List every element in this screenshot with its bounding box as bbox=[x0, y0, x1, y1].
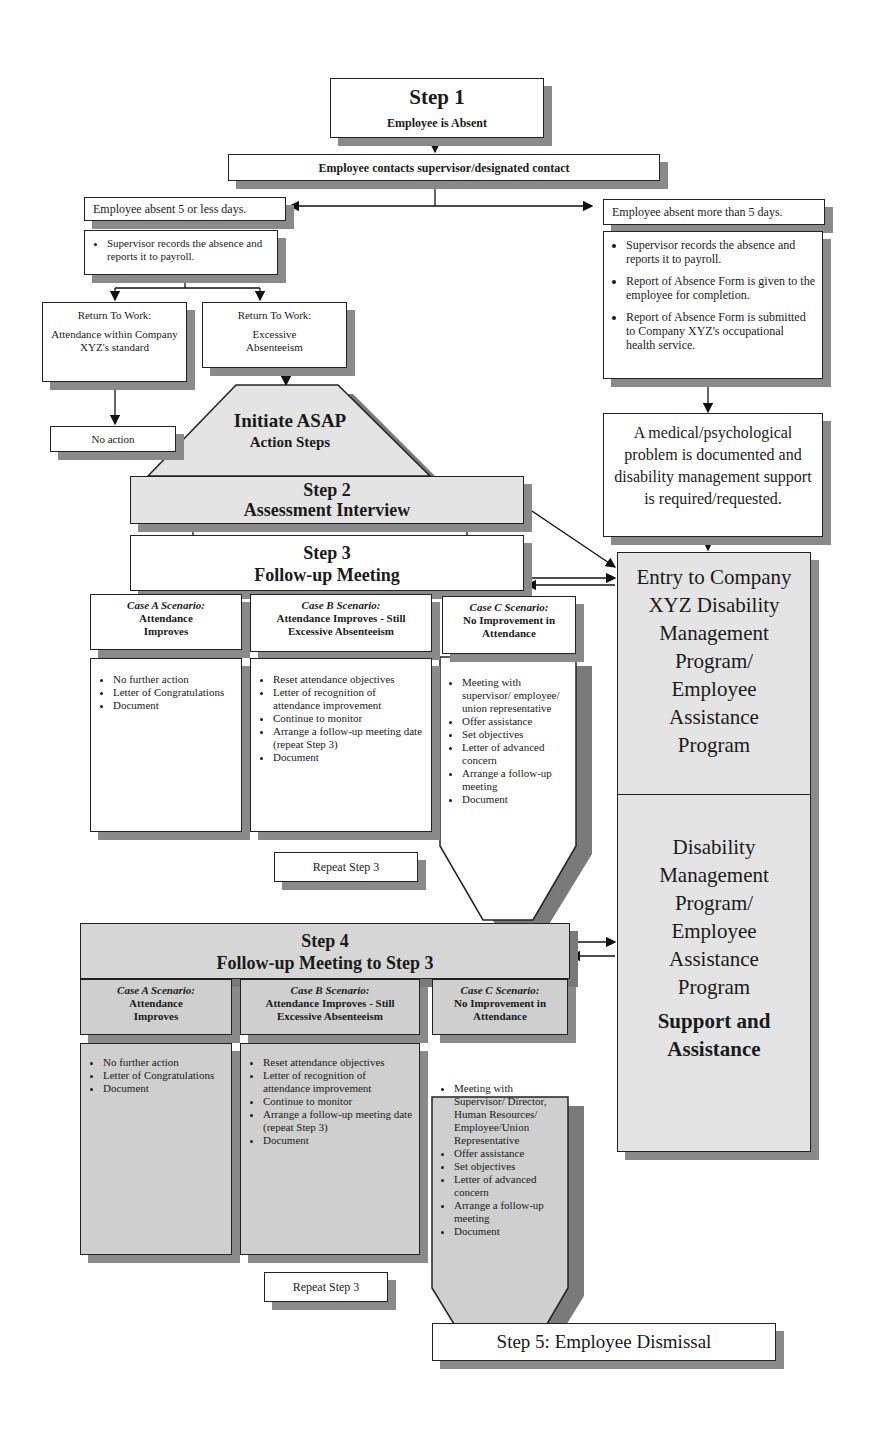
rtw-excess-body: Excessive Absenteeism bbox=[209, 328, 340, 354]
absent-short-box: Employee absent 5 or less days. bbox=[84, 197, 286, 221]
absent-long-actions: Supervisor records the absence and repor… bbox=[603, 231, 823, 379]
rtw-excess-title: Return To Work: bbox=[209, 309, 340, 322]
case-heading: No Improvement in Attendance bbox=[433, 997, 567, 1023]
step3-box: Step 3 Follow-up Meeting bbox=[130, 535, 524, 591]
action-item: Supervisor records the absence and repor… bbox=[107, 237, 271, 263]
step4-repeat-box: Repeat Step 3 bbox=[264, 1272, 388, 1302]
step4-case-c-body: Meeting with Supervisor/ Director, Human… bbox=[438, 1082, 566, 1238]
list-item: Letter of advanced concern bbox=[462, 741, 572, 767]
absent-short-actions: Supervisor records the absence and repor… bbox=[84, 230, 278, 275]
step3-case-b-body: Reset attendance objectives Letter of re… bbox=[250, 658, 432, 832]
step2-title: Step 2 bbox=[131, 480, 523, 500]
program-name: Disability Management Program/ Employee … bbox=[618, 795, 810, 1007]
list-item: Meeting with Supervisor/ Director, Human… bbox=[454, 1082, 566, 1147]
list-item: Arrange a follow-up meeting date (repeat… bbox=[273, 725, 425, 751]
program-panel: Entry to Company XYZ Disability Manageme… bbox=[617, 552, 811, 1152]
program-support: Support and Assistance bbox=[618, 1007, 810, 1063]
list-item: Continue to monitor bbox=[273, 712, 425, 725]
asap-line1: Initiate ASAP bbox=[180, 410, 400, 432]
case-label: Case C Scenario: bbox=[443, 601, 575, 614]
list-item: Document bbox=[103, 1082, 225, 1095]
rtw-ok-title: Return To Work: bbox=[49, 309, 180, 322]
step3-case-a-body: No further action Letter of Congratulati… bbox=[90, 658, 242, 832]
no-action-box: No action bbox=[50, 426, 176, 452]
step3-case-a-header: Case A Scenario: Attendance Improves bbox=[90, 594, 242, 650]
list-item: Letter of recognition of attendance impr… bbox=[273, 686, 425, 712]
list-item: Continue to monitor bbox=[263, 1095, 413, 1108]
step3-repeat-box: Repeat Step 3 bbox=[274, 852, 418, 882]
case-label: Case C Scenario: bbox=[433, 984, 567, 997]
action-item: Report of Absence Form is submitted to C… bbox=[626, 310, 816, 352]
step1-subtitle: Employee is Absent bbox=[331, 116, 543, 130]
list-item: Document bbox=[113, 699, 235, 712]
action-item: Report of Absence Form is given to the e… bbox=[626, 274, 816, 302]
list-item: Reset attendance objectives bbox=[273, 673, 425, 686]
list-item: No further action bbox=[103, 1056, 225, 1069]
case-heading: Attendance Improves bbox=[81, 997, 231, 1023]
step2-box: Step 2 Assessment Interview bbox=[130, 476, 524, 524]
list-item: Document bbox=[263, 1134, 413, 1147]
list-item: Set objectives bbox=[454, 1160, 566, 1173]
case-label: Case B Scenario: bbox=[241, 984, 419, 997]
list-item: Offer assistance bbox=[454, 1147, 566, 1160]
step4-box: Step 4 Follow-up Meeting to Step 3 bbox=[80, 923, 570, 979]
action-item: Supervisor records the absence and repor… bbox=[626, 238, 816, 266]
step4-title: Step 4 bbox=[81, 930, 569, 952]
list-item: Letter of Congratulations bbox=[103, 1069, 225, 1082]
case-heading: Attendance Improves - Still Excessive Ab… bbox=[251, 612, 431, 638]
list-item: No further action bbox=[113, 673, 235, 686]
list-item: Letter of advanced concern bbox=[454, 1173, 566, 1199]
step4-case-c-header: Case C Scenario: No Improvement in Atten… bbox=[432, 979, 568, 1035]
case-label: Case B Scenario: bbox=[251, 599, 431, 612]
step4-case-b-header: Case B Scenario: Attendance Improves - S… bbox=[240, 979, 420, 1035]
step4-subtitle: Follow-up Meeting to Step 3 bbox=[81, 952, 569, 974]
asap-shape: Initiate ASAP Action Steps bbox=[180, 410, 400, 451]
list-item: Letter of recognition of attendance impr… bbox=[263, 1069, 413, 1095]
step3-case-c-header: Case C Scenario: No Improvement in Atten… bbox=[442, 596, 576, 654]
list-item: Set objectives bbox=[462, 728, 572, 741]
list-item: Letter of Congratulations bbox=[113, 686, 235, 699]
step3-title: Step 3 bbox=[131, 542, 523, 564]
step5-box: Step 5: Employee Dismissal bbox=[432, 1323, 776, 1361]
step4-case-a-body: No further action Letter of Congratulati… bbox=[80, 1043, 232, 1255]
absent-long-box: Employee absent more than 5 days. bbox=[603, 199, 825, 225]
list-item: Arrange a follow-up meeting bbox=[454, 1199, 566, 1225]
list-item: Document bbox=[273, 751, 425, 764]
list-item: Document bbox=[462, 793, 572, 806]
list-item: Arrange a follow-up meeting bbox=[462, 767, 572, 793]
step1-title: Step 1 bbox=[331, 85, 543, 110]
rtw-excess-box: Return To Work: Excessive Absenteeism bbox=[202, 302, 347, 368]
step4-case-b-body: Reset attendance objectives Letter of re… bbox=[240, 1043, 420, 1255]
step3-subtitle: Follow-up Meeting bbox=[131, 564, 523, 586]
rtw-ok-body: Attendance within Company XYZ's standard bbox=[49, 328, 180, 354]
step2-subtitle: Assessment Interview bbox=[131, 500, 523, 521]
step4-case-a-header: Case A Scenario: Attendance Improves bbox=[80, 979, 232, 1035]
case-heading: No Improvement in Attendance bbox=[443, 614, 575, 640]
program-entry: Entry to Company XYZ Disability Manageme… bbox=[618, 553, 810, 795]
list-item: Reset attendance objectives bbox=[263, 1056, 413, 1069]
contact-box: Employee contacts supervisor/designated … bbox=[228, 154, 660, 181]
step3-case-c-body: Meeting with supervisor/ employee/ union… bbox=[446, 676, 572, 806]
step3-case-b-header: Case B Scenario: Attendance Improves - S… bbox=[250, 594, 432, 652]
medical-box: A medical/psychological problem is docum… bbox=[603, 413, 823, 537]
case-label: Case A Scenario: bbox=[81, 984, 231, 997]
list-item: Document bbox=[454, 1225, 566, 1238]
rtw-ok-box: Return To Work: Attendance within Compan… bbox=[42, 302, 187, 382]
list-item: Offer assistance bbox=[462, 715, 572, 728]
step1-box: Step 1 Employee is Absent bbox=[330, 78, 544, 138]
asap-line2: Action Steps bbox=[180, 434, 400, 451]
case-label: Case A Scenario: bbox=[91, 599, 241, 612]
case-heading: Attendance Improves bbox=[91, 612, 241, 638]
list-item: Arrange a follow-up meeting date (repeat… bbox=[263, 1108, 413, 1134]
case-heading: Attendance Improves - Still Excessive Ab… bbox=[241, 997, 419, 1023]
list-item: Meeting with supervisor/ employee/ union… bbox=[462, 676, 572, 715]
